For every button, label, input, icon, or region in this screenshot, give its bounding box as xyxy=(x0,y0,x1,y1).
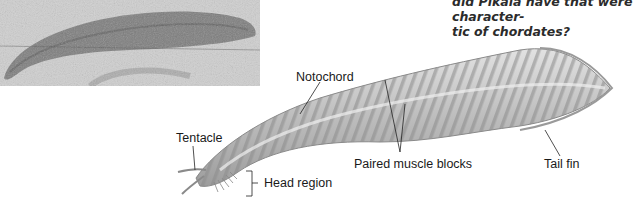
tentacle-leader xyxy=(193,146,195,170)
head-region-bracket xyxy=(246,171,258,196)
head-region-label: Head region xyxy=(264,176,332,190)
tentacle-label: Tentacle xyxy=(176,131,223,145)
pikaia-illustration xyxy=(0,0,633,204)
tail-fin-label: Tail fin xyxy=(544,157,579,171)
paired-muscle-blocks-label: Paired muscle blocks xyxy=(354,157,472,171)
tailfin-leader xyxy=(545,130,560,156)
notochord-label: Notochord xyxy=(296,70,354,84)
